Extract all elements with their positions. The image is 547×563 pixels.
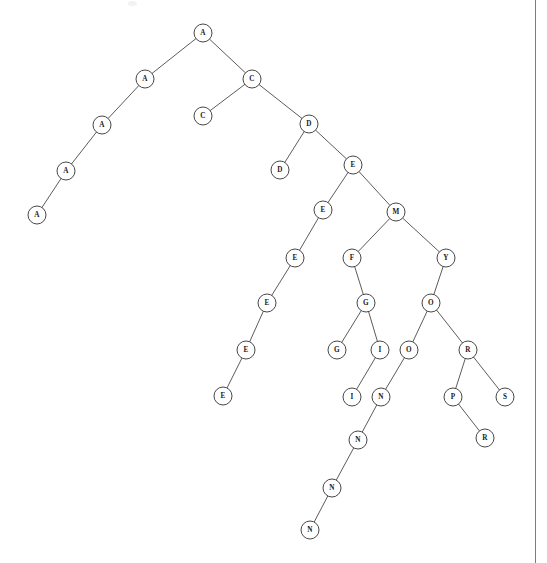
tree-edge [342, 311, 362, 343]
tree-node-label: E [351, 161, 356, 169]
tree-edge [328, 172, 348, 202]
diagram-page: AACACDADEAEMEFYEGOEGIOREINPSNRNN [0, 0, 547, 563]
tree-node-label: O [428, 299, 434, 307]
tree-node[interactable]: A [194, 24, 212, 42]
tree-node[interactable]: I [343, 388, 361, 406]
tree-edge [357, 358, 376, 390]
tree-edge [300, 218, 319, 250]
tree-node[interactable]: C [194, 107, 212, 125]
tree-edge [314, 496, 328, 522]
tree-node-label: E [293, 254, 298, 262]
tree-node-label: E [265, 299, 270, 307]
tree-node-label: A [34, 211, 40, 219]
tree-node-label: A [99, 121, 105, 129]
tree-node-label: M [393, 208, 400, 216]
tree-node[interactable]: A [57, 162, 75, 180]
tree-edge [362, 405, 377, 432]
tree-edge [413, 311, 427, 342]
node-layer: AACACDADEAEMEFYEGOEGIOREINPSNRNN [28, 24, 514, 539]
tree-node[interactable]: D [271, 161, 289, 179]
tree-edge [358, 219, 390, 252]
tree-node-label: A [142, 75, 148, 83]
tree-node[interactable]: N [301, 521, 319, 539]
tree-node[interactable]: P [444, 388, 462, 406]
tree-edge [386, 358, 405, 390]
tree-node-label: I [379, 346, 382, 354]
tree-node-label: E [244, 346, 249, 354]
tree-edge [316, 130, 347, 159]
tree-node-label: O [406, 346, 412, 354]
tree-node[interactable]: Y [437, 249, 455, 267]
tree-edge [72, 132, 97, 164]
tree-node[interactable]: F [343, 249, 361, 267]
tree-edge [459, 404, 480, 431]
tree-edge [434, 267, 443, 295]
tree-edge [285, 132, 304, 163]
tree-edge [403, 218, 440, 252]
tree-node-label: A [63, 167, 69, 175]
tree-diagram-canvas: AACACDADEAEMEFYEGOEGIOREINPSNRNN [0, 0, 547, 563]
tree-node-label: G [334, 346, 340, 354]
tree-node[interactable]: A [136, 70, 154, 88]
tree-node-label: A [200, 29, 206, 37]
tree-node-label: E [221, 392, 226, 400]
tree-node[interactable]: O [422, 294, 440, 312]
tree-node-label: N [329, 484, 335, 492]
tree-node[interactable]: A [93, 116, 111, 134]
tree-node[interactable]: E [286, 249, 304, 267]
edge-layer [42, 39, 499, 522]
tree-edge [259, 85, 302, 119]
scan-artifact [128, 1, 137, 6]
page-border-right [535, 0, 536, 563]
tree-edge [437, 310, 463, 343]
tree-node[interactable]: S [496, 388, 514, 406]
tree-edge [474, 357, 500, 390]
tree-edge [210, 84, 245, 110]
tree-edge [456, 359, 466, 389]
tree-node[interactable]: M [387, 203, 405, 221]
tree-node-label: D [306, 120, 311, 128]
tree-node[interactable]: E [258, 294, 276, 312]
tree-node-label: N [307, 526, 313, 534]
tree-edge [227, 358, 242, 388]
tree-node-label: Y [443, 254, 449, 262]
tree-node-label: I [351, 393, 354, 401]
tree-node[interactable]: R [476, 429, 494, 447]
tree-edge [336, 448, 353, 480]
tree-node-label: R [465, 346, 471, 354]
tree-node-label: C [249, 75, 254, 83]
tree-node[interactable]: E [314, 201, 332, 219]
tree-edge [152, 39, 196, 74]
tree-node[interactable]: G [357, 294, 375, 312]
tree-edge [272, 266, 291, 296]
tree-node[interactable]: A [28, 206, 46, 224]
tree-edge [250, 311, 264, 342]
tree-node-label: D [277, 166, 282, 174]
tree-node-label: F [350, 254, 355, 262]
tree-node[interactable]: C [243, 70, 261, 88]
tree-node[interactable]: I [371, 341, 389, 359]
tree-edge [359, 172, 390, 206]
tree-edge [355, 267, 364, 295]
tree-node-label: P [451, 393, 456, 401]
tree-node[interactable]: N [349, 431, 367, 449]
tree-node-label: S [503, 393, 507, 401]
tree-node[interactable]: E [237, 341, 255, 359]
tree-node[interactable]: R [459, 341, 477, 359]
tree-node[interactable]: E [214, 387, 232, 405]
tree-node-label: G [363, 299, 369, 307]
tree-node-label: E [321, 206, 326, 214]
tree-node[interactable]: N [323, 479, 341, 497]
tree-node[interactable]: D [300, 115, 318, 133]
tree-node-label: N [355, 436, 361, 444]
tree-node[interactable]: G [328, 341, 346, 359]
tree-node-label: R [482, 434, 488, 442]
tree-node[interactable]: E [344, 156, 362, 174]
tree-edge [42, 179, 61, 208]
tree-node[interactable]: O [400, 341, 418, 359]
tree-node-label: C [200, 112, 205, 120]
tree-edge [108, 86, 139, 119]
tree-edge [369, 312, 378, 342]
tree-edge [210, 39, 246, 73]
tree-node[interactable]: N [372, 388, 390, 406]
